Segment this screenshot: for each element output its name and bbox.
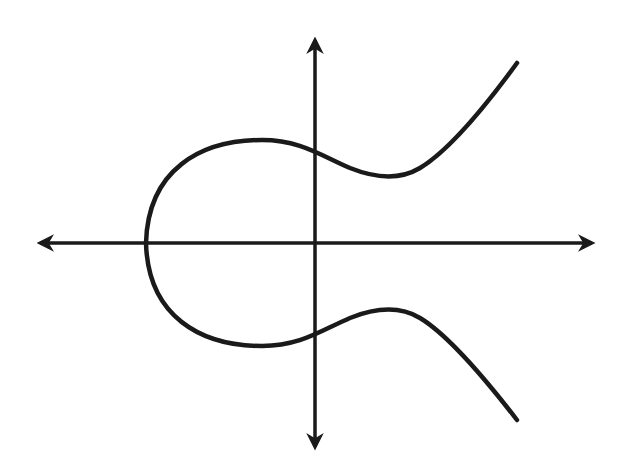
elliptic-curve-diagram bbox=[0, 0, 619, 472]
